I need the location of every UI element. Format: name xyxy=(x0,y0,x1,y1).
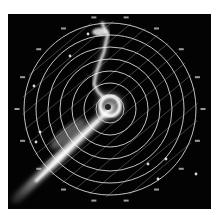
echo-dot xyxy=(39,131,42,134)
bearing-label xyxy=(91,200,96,202)
bearing-label xyxy=(195,140,200,142)
bearing-label xyxy=(61,27,66,29)
bearing-label xyxy=(20,140,25,142)
echo-dot xyxy=(35,141,38,144)
radar-scope-graphics xyxy=(8,14,211,209)
echo-dot xyxy=(69,55,72,58)
radar-echoes xyxy=(16,22,201,209)
bearing-label xyxy=(20,76,25,78)
bearing-label xyxy=(179,48,184,50)
echo-dot xyxy=(195,173,198,176)
bearing-label xyxy=(91,16,96,18)
echo-dot xyxy=(165,158,168,161)
radar-scope xyxy=(8,14,211,209)
echo-dot xyxy=(33,85,36,88)
bearing-label xyxy=(124,200,129,202)
spiral-eye xyxy=(105,104,111,110)
echo-cluster xyxy=(92,28,108,36)
bearing-label xyxy=(36,168,41,170)
bearing-label xyxy=(195,76,200,78)
echo-dot xyxy=(147,163,150,166)
bearing-label xyxy=(154,189,159,191)
bearing-label xyxy=(15,108,20,110)
bearing-label xyxy=(61,189,66,191)
bearing-label xyxy=(154,27,159,29)
echo-dot xyxy=(87,33,90,36)
scan-line xyxy=(24,60,211,209)
bearing-label xyxy=(179,168,184,170)
bearing-label xyxy=(124,16,129,18)
bearing-label xyxy=(201,108,206,110)
echo-dot xyxy=(157,178,160,181)
bearing-label xyxy=(36,48,41,50)
